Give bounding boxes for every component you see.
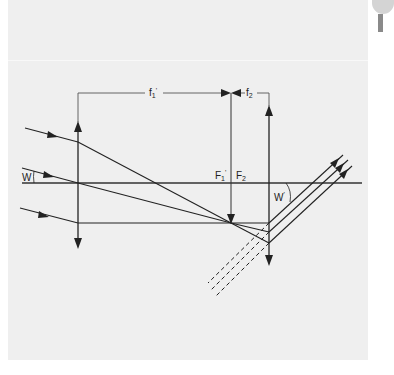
f1-arrowhead bbox=[221, 89, 231, 97]
lens-2-bottom-arrow bbox=[265, 255, 273, 266]
lens-2-top-arrow bbox=[265, 105, 273, 116]
label-w-out: W' bbox=[274, 191, 285, 203]
label-w-in: W bbox=[22, 172, 32, 183]
angle-w-prime-arc bbox=[286, 183, 291, 202]
lens-1-top-arrow bbox=[74, 121, 82, 132]
outgoing-ray-arrows bbox=[330, 158, 348, 179]
label-F2: F2 bbox=[236, 170, 246, 182]
f2-arrowhead bbox=[231, 89, 241, 97]
lens-1-bottom-arrow bbox=[74, 238, 82, 249]
label-f2: f2 bbox=[246, 87, 253, 99]
label-F1-prime: F1' bbox=[215, 169, 226, 182]
label-f1: f1' bbox=[149, 87, 157, 99]
angle-w-arc bbox=[34, 171, 35, 183]
incoming-ray-arrows bbox=[38, 131, 58, 218]
converging-rays bbox=[78, 142, 269, 243]
virtual-ray-extensions bbox=[208, 223, 269, 296]
